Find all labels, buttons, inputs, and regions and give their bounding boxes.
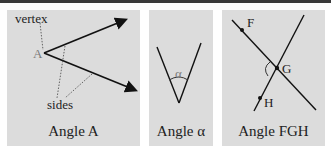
panel-angle-alpha: α Angle α <box>149 10 213 146</box>
top-border <box>0 0 331 3</box>
caption-angle-fgh: Angle FGH <box>222 123 325 140</box>
point-h-label: H <box>264 96 273 109</box>
point-g-label: G <box>282 62 291 75</box>
point-a-label: A <box>33 47 42 60</box>
point-f-label: F <box>247 16 254 29</box>
vertex-label: vertex <box>15 12 47 25</box>
panel-angle-fgh: F G H Angle FGH <box>222 10 325 146</box>
alpha-label: α <box>175 67 182 80</box>
panel-angle-a: vertex A sides Angle A <box>7 10 140 146</box>
caption-angle-a: Angle A <box>7 123 140 140</box>
sides-label: sides <box>47 98 73 111</box>
caption-angle-alpha: Angle α <box>149 123 213 140</box>
